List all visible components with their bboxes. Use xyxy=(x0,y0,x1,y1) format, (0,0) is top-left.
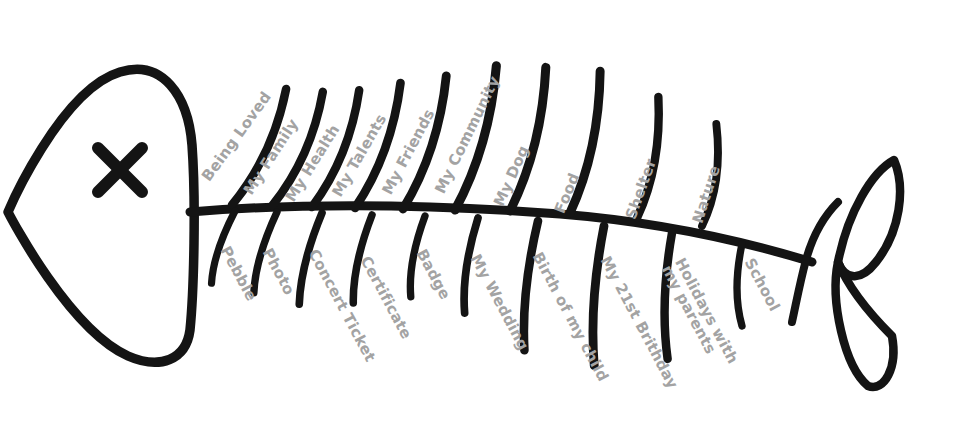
bottom-bones-group xyxy=(212,211,742,366)
bone-top-0 xyxy=(232,89,286,205)
bone-bottom-0 xyxy=(212,211,235,283)
fishbone-diagram-canvas: Being LovedMy FamilyMy HealthMy TalentsM… xyxy=(0,0,962,429)
bone-top-7 xyxy=(570,71,600,213)
bone-top-5 xyxy=(455,66,496,210)
bone-top-6 xyxy=(510,67,546,211)
fish-tail xyxy=(836,160,900,387)
bone-bottom-9 xyxy=(737,244,742,326)
bone-top-3 xyxy=(355,83,400,208)
bone-bottom-7 xyxy=(593,226,604,366)
bone-bottom-3 xyxy=(353,215,372,303)
x-eye-icon xyxy=(98,148,142,192)
fish-head xyxy=(8,69,194,362)
bone-top-9 xyxy=(702,124,718,226)
fish-spine xyxy=(190,206,812,262)
bone-bottom-6 xyxy=(524,221,538,350)
bone-top-4 xyxy=(403,76,446,209)
bone-bottom-1 xyxy=(254,212,277,293)
bone-bottom-4 xyxy=(410,216,425,297)
fish-head-outline xyxy=(8,69,194,362)
bone-bottom-2 xyxy=(299,213,322,304)
fishbone-illustration xyxy=(0,0,962,429)
bone-bottom-8 xyxy=(665,233,672,359)
bone-bottom-5 xyxy=(464,218,478,313)
bone-top-8 xyxy=(637,97,659,218)
